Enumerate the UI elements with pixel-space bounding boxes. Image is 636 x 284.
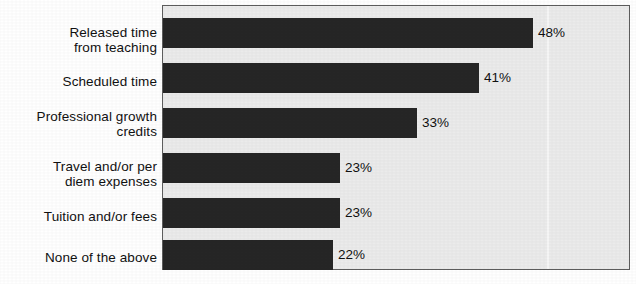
bar-5 — [163, 240, 333, 270]
bar-value-4: 23% — [345, 198, 372, 228]
bar-2 — [163, 108, 417, 138]
category-label-2: Professional growth credits — [0, 109, 157, 139]
bar-1 — [163, 63, 479, 93]
bar-value-2: 33% — [422, 108, 449, 138]
plot-inner: 48% 41% 33% 23% 23% 22% — [163, 6, 629, 269]
bar-value-3: 23% — [345, 153, 372, 183]
category-label-5: None of the above — [0, 250, 157, 265]
bar-4 — [163, 198, 340, 228]
category-label-0: Released time from teaching — [0, 25, 157, 55]
bar-0 — [163, 18, 533, 48]
category-label-1: Scheduled time — [0, 74, 157, 89]
bar-value-1: 41% — [484, 63, 511, 93]
category-label-3: Travel and/or per diem expenses — [0, 159, 157, 189]
category-axis: Released time from teaching Scheduled ti… — [0, 0, 157, 284]
category-label-4: Tuition and/or fees — [0, 209, 157, 224]
plot-area: 48% 41% 33% 23% 23% 22% — [162, 5, 630, 270]
bar-value-0: 48% — [538, 18, 565, 48]
bar-chart-figure: Released time from teaching Scheduled ti… — [0, 0, 636, 284]
bar-value-5: 22% — [338, 240, 365, 270]
bar-3 — [163, 153, 340, 183]
